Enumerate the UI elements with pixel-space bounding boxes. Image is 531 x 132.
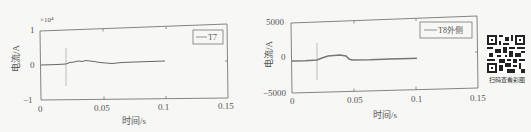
y-axis-label: 电流/A bbox=[10, 44, 21, 72]
y-tick-label: 0 bbox=[281, 52, 286, 62]
chart-right: 5000 0 −5000 0 0.05 0.1 0.15 时间/s 电流/A T… bbox=[263, 16, 486, 120]
qr-caption: 扫码查看彩图 bbox=[483, 75, 531, 84]
y-tick-label: −5000 bbox=[263, 88, 287, 98]
x-tick-label: 0.15 bbox=[470, 93, 486, 103]
y-multiplier: ×10⁴ bbox=[40, 16, 54, 24]
x-tick-label: 0.15 bbox=[218, 101, 234, 111]
y-tick-label: 0 bbox=[30, 60, 35, 70]
y-tick-label: −1 bbox=[23, 95, 33, 105]
qr-code-icon[interactable] bbox=[487, 35, 525, 73]
y-tick-label: 1 bbox=[30, 25, 35, 35]
legend-label: T7 bbox=[208, 33, 217, 42]
legend-label: T8外侧 bbox=[438, 25, 463, 35]
chart-left: ×10⁴ 1 0 −1 0 0.05 0.1 0.15 时间/s 电流/A T7 bbox=[10, 16, 234, 126]
x-tick-label: 0 bbox=[290, 96, 295, 106]
x-tick-label: 0.05 bbox=[94, 103, 110, 113]
x-tick-label: 0.1 bbox=[158, 102, 169, 112]
x-axis-label: 时间/s bbox=[122, 115, 147, 126]
legend: T8外侧 bbox=[420, 22, 472, 38]
legend: T7 bbox=[193, 30, 223, 44]
charts-canvas: ×10⁴ 1 0 −1 0 0.05 0.1 0.15 时间/s 电流/A T7 bbox=[0, 0, 531, 132]
x-axis-label: 时间/s bbox=[373, 109, 398, 120]
y-tick-label: 5000 bbox=[266, 17, 285, 27]
series-line-t7 bbox=[41, 61, 165, 66]
x-tick-label: 0.05 bbox=[347, 95, 363, 105]
y-axis-label: 电流/A bbox=[263, 40, 274, 68]
series-line-t8-outer bbox=[292, 55, 417, 61]
x-tick-label: 0 bbox=[38, 104, 43, 114]
x-tick-label: 0.1 bbox=[411, 94, 422, 104]
